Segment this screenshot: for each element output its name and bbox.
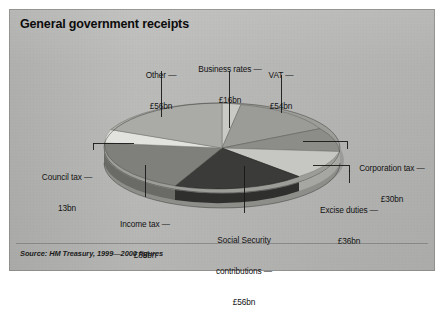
callout-excise-duties-label: Excise duties — (303, 205, 395, 215)
source-note: Source: HM Treasury, 1999—2000 figures (20, 249, 163, 258)
callout-income-tax: Income tax — £88bn (100, 199, 190, 281)
callout-social-security: Social Security contributions — £56bn (198, 215, 290, 309)
callout-vat-label: VAT — (241, 70, 321, 80)
callout-social-security-value: £56bn (198, 297, 290, 307)
callout-income-tax-label: Income tax — (100, 219, 190, 229)
callout-council-tax-value: 13bn (27, 203, 107, 213)
callout-council-tax-label: Council tax — (27, 172, 107, 182)
callout-social-security-label1: Social Security (198, 235, 290, 245)
callout-excise-duties: Excise duties — £36bn (303, 185, 395, 267)
callout-council-tax: Council tax — 13bn (27, 152, 107, 234)
callout-excise-duties-value: £36bn (303, 236, 395, 246)
callout-corporation-tax-label: Corporation tax — (344, 163, 440, 173)
callout-social-security-label2: contributions — (198, 266, 290, 276)
source-divider (16, 243, 428, 244)
callout-vat: VAT — £54bn (241, 50, 321, 132)
callout-vat-value: £54bn (241, 101, 321, 111)
